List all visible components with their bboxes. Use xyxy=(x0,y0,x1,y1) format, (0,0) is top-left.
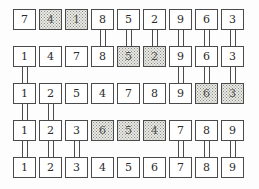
grid-cell: 8 xyxy=(91,9,114,30)
grid-cell-value: 2 xyxy=(47,125,54,136)
grid-cell-value: 3 xyxy=(229,14,236,25)
grid-cell-value: 3 xyxy=(73,125,80,136)
grid-cell: 7 xyxy=(65,46,88,67)
grid-cell: 4 xyxy=(91,157,114,178)
grid-cell-value: 2 xyxy=(151,14,158,25)
grid-cell: 6 xyxy=(195,9,218,30)
grid-cell-shaded: 6 xyxy=(195,83,218,104)
grid-cell-value: 2 xyxy=(47,88,54,99)
grid-cell-value: 9 xyxy=(177,88,184,99)
grid-cell-value: 6 xyxy=(203,14,210,25)
grid-cell-value: 3 xyxy=(229,51,236,62)
grid-cell: 2 xyxy=(39,83,62,104)
cell-connector xyxy=(230,66,236,84)
grid-cell-value: 1 xyxy=(21,88,28,99)
grid-cell-value: 8 xyxy=(151,88,158,99)
grid-cell: 3 xyxy=(221,9,244,30)
grid-cell-value: 4 xyxy=(151,125,158,136)
cell-connector xyxy=(204,29,210,47)
grid-cell: 9 xyxy=(169,83,192,104)
number-grid-figure: 7418529631478529631254789631236547891234… xyxy=(0,0,259,189)
grid-cell-value: 6 xyxy=(99,125,106,136)
grid-cell: 4 xyxy=(91,83,114,104)
grid-cell-shaded: 6 xyxy=(91,120,114,141)
grid-cell: 6 xyxy=(195,46,218,67)
grid-cell-value: 7 xyxy=(125,88,132,99)
grid-cell-value: 5 xyxy=(125,125,132,136)
grid-cell: 8 xyxy=(91,46,114,67)
grid-cell-value: 3 xyxy=(73,162,80,173)
grid-cell: 4 xyxy=(39,46,62,67)
grid-cell-shaded: 4 xyxy=(143,120,166,141)
grid-cell: 6 xyxy=(143,157,166,178)
grid-cell: 8 xyxy=(195,120,218,141)
grid-cell-value: 7 xyxy=(177,125,184,136)
grid-cell-value: 9 xyxy=(229,162,236,173)
cell-connector xyxy=(178,29,184,47)
grid-cell-shaded: 1 xyxy=(65,9,88,30)
grid-cell-value: 5 xyxy=(125,51,132,62)
grid-cell-shaded: 2 xyxy=(143,46,166,67)
grid-cell-value: 8 xyxy=(99,14,106,25)
cell-connector xyxy=(178,140,184,158)
grid-cell-value: 6 xyxy=(203,51,210,62)
grid-cell: 7 xyxy=(13,9,36,30)
grid-cell-value: 5 xyxy=(125,14,132,25)
cell-connector xyxy=(100,29,106,47)
grid-cell: 9 xyxy=(221,157,244,178)
cell-connector xyxy=(74,140,80,158)
grid-cell-value: 4 xyxy=(99,88,106,99)
grid-cell: 9 xyxy=(221,120,244,141)
grid-cell-value: 2 xyxy=(47,162,54,173)
grid-cell: 2 xyxy=(39,157,62,178)
grid-cell: 2 xyxy=(143,9,166,30)
grid-cell: 1 xyxy=(13,120,36,141)
cell-connector xyxy=(178,66,184,84)
grid-cell-value: 5 xyxy=(125,162,132,173)
grid-cell: 7 xyxy=(169,157,192,178)
grid-cell-value: 4 xyxy=(99,162,106,173)
grid-cell-value: 7 xyxy=(73,51,80,62)
grid-cell-value: 4 xyxy=(47,51,54,62)
grid-cell-value: 7 xyxy=(21,14,28,25)
grid-cell: 3 xyxy=(65,120,88,141)
grid-cell-value: 6 xyxy=(203,88,210,99)
cell-connector xyxy=(22,66,28,84)
cell-connector xyxy=(204,66,210,84)
cell-connector xyxy=(22,140,28,158)
cell-connector xyxy=(48,103,54,121)
grid-cell: 3 xyxy=(221,46,244,67)
grid-cell: 8 xyxy=(195,157,218,178)
grid-cell: 5 xyxy=(117,9,140,30)
cell-connector xyxy=(22,103,28,121)
grid-cell-value: 8 xyxy=(203,162,210,173)
grid-cell-value: 3 xyxy=(229,88,236,99)
grid-cell: 2 xyxy=(39,120,62,141)
grid-cell-value: 2 xyxy=(151,51,158,62)
grid-cell-value: 9 xyxy=(177,14,184,25)
grid-cell: 9 xyxy=(169,9,192,30)
grid-cell-value: 6 xyxy=(151,162,158,173)
grid-cell: 1 xyxy=(13,157,36,178)
grid-cell: 7 xyxy=(169,120,192,141)
grid-cell-value: 1 xyxy=(21,162,28,173)
grid-cell-value: 1 xyxy=(73,14,80,25)
cell-connector xyxy=(48,140,54,158)
grid-cell: 5 xyxy=(117,157,140,178)
cell-connector xyxy=(126,29,132,47)
grid-cell-value: 8 xyxy=(99,51,106,62)
grid-cell: 3 xyxy=(65,157,88,178)
cell-connector xyxy=(230,29,236,47)
grid-cell-value: 1 xyxy=(21,125,28,136)
cell-connector xyxy=(204,140,210,158)
grid-cell-shaded: 3 xyxy=(221,83,244,104)
grid-cell-shaded: 5 xyxy=(117,120,140,141)
cell-connector xyxy=(230,140,236,158)
grid-cell: 7 xyxy=(117,83,140,104)
grid-cell: 5 xyxy=(65,83,88,104)
grid-cell-shaded: 4 xyxy=(39,9,62,30)
grid-cell-shaded: 5 xyxy=(117,46,140,67)
grid-cell: 8 xyxy=(143,83,166,104)
grid-cell: 1 xyxy=(13,46,36,67)
grid-cell-value: 5 xyxy=(73,88,80,99)
